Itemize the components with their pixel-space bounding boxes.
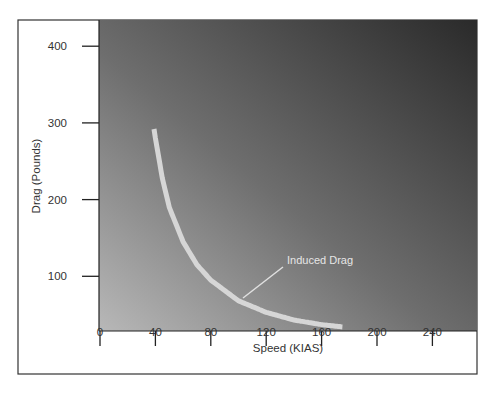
- y-tick-label: 300: [48, 117, 67, 129]
- chart-canvas: 100200300400 04080120160200240 Induced D…: [0, 0, 494, 400]
- x-tick-label: 0: [97, 326, 103, 338]
- x-tick-label: 240: [423, 326, 442, 338]
- y-tick-label: 400: [48, 40, 67, 52]
- y-tick-label: 200: [48, 194, 67, 206]
- x-tick-label: 200: [367, 326, 386, 338]
- plot-area: [99, 20, 477, 331]
- y-tick-label: 100: [48, 270, 67, 282]
- x-tick-label: 40: [149, 326, 162, 338]
- x-tick-label: 80: [204, 326, 217, 338]
- x-tick-label: 120: [257, 326, 276, 338]
- annotation-induced-drag: Induced Drag: [287, 254, 353, 266]
- x-axis-title: Speed (KIAS): [253, 342, 323, 354]
- y-axis-title: Drag (Pounds): [30, 138, 42, 213]
